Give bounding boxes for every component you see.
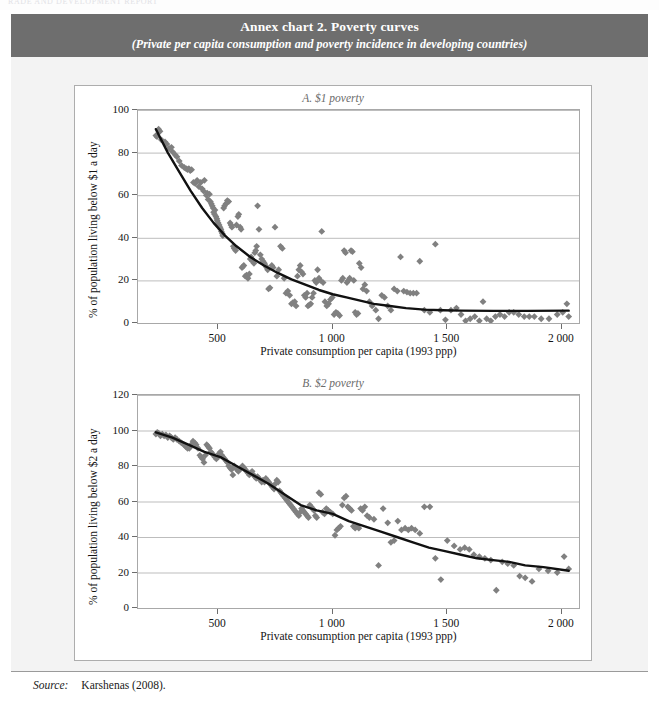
x-tick [217, 609, 218, 614]
chart-subtitle: (Private per capita consumption and pove… [11, 36, 648, 53]
chart-a-x-axis: 5001 0001 5002 000 [137, 109, 580, 324]
chart-b-y-axis-title: % of population living below $2 a day [87, 428, 99, 605]
chart-title: Annex chart 2. Poverty curves [11, 18, 648, 36]
source-line: Source:Karshenas (2008). [33, 679, 166, 691]
x-tick-label: 1 000 [319, 332, 345, 344]
x-tick [217, 324, 218, 329]
x-tick-label: 1 000 [319, 617, 345, 629]
x-tick [332, 324, 333, 329]
x-tick-label: 500 [209, 332, 226, 344]
y-tick-label: 100 [113, 424, 130, 436]
y-tick-label: 20 [118, 566, 129, 578]
x-tick [561, 609, 562, 614]
chart-b-caption: B. $2 poverty [75, 377, 591, 389]
chart-b-x-axis-title: Private consumption per capita (1993 ppp… [137, 630, 580, 642]
charts-panel: A. $1 poverty 020406080100 5001 0001 500… [74, 85, 592, 661]
chart-panel-a: A. $1 poverty 020406080100 5001 0001 500… [75, 90, 591, 375]
chart-header-band: Annex chart 2. Poverty curves (Private p… [11, 14, 648, 57]
y-tick-label: 80 [118, 146, 129, 158]
x-tick [446, 609, 447, 614]
page-top-bleed: RADE AND DEVELOPMENT REPORT [0, 0, 659, 10]
top-bleed-text: RADE AND DEVELOPMENT REPORT [8, 0, 659, 6]
y-tick-label: 80 [118, 459, 129, 471]
y-tick-label: 0 [124, 601, 130, 613]
source-label: Source: [33, 679, 68, 691]
y-tick-label: 100 [113, 103, 130, 115]
chart-a-caption: A. $1 poverty [75, 92, 591, 104]
annex-chart-page: Annex chart 2. Poverty curves (Private p… [11, 14, 648, 700]
y-tick-label: 0 [124, 316, 130, 328]
chart-b-x-axis: 5001 0001 5002 000 [137, 394, 580, 609]
y-tick-label: 40 [118, 530, 129, 542]
x-tick-label: 1 500 [433, 617, 459, 629]
y-tick-label: 60 [118, 495, 129, 507]
y-tick-label: 60 [118, 188, 129, 200]
x-tick-label: 1 500 [433, 332, 459, 344]
chart-panel-b: B. $2 poverty 020406080100120 5001 0001 … [75, 375, 591, 660]
source-text: Karshenas (2008). [81, 679, 165, 691]
x-tick-label: 2 000 [548, 617, 574, 629]
x-tick [446, 324, 447, 329]
y-tick-label: 120 [113, 388, 130, 400]
chart-body-area: A. $1 poverty 020406080100 5001 0001 500… [11, 57, 648, 671]
y-tick-label: 20 [118, 273, 129, 285]
chart-a-y-axis-title: % of population living below $1 a day [87, 141, 99, 318]
y-tick-label: 40 [118, 231, 129, 243]
chart-a-x-axis-title: Private consumption per capita (1993 ppp… [137, 345, 580, 357]
x-tick [332, 609, 333, 614]
x-tick-label: 500 [209, 617, 226, 629]
x-tick [561, 324, 562, 329]
source-footer: Source:Karshenas (2008). [11, 671, 648, 700]
x-tick-label: 2 000 [548, 332, 574, 344]
